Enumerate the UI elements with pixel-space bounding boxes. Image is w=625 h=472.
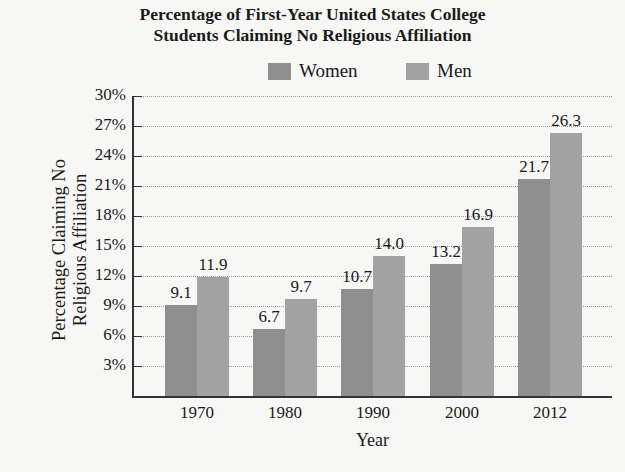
bar-men-1990 — [373, 256, 405, 396]
y-tick-label: 12% — [76, 265, 126, 285]
y-tick-mark — [134, 96, 142, 98]
value-label-men-1990: 14.0 — [364, 234, 414, 254]
y-tick-mark — [134, 246, 142, 248]
value-label-men-1980: 9.7 — [276, 277, 326, 297]
value-label-men-2012: 26.3 — [541, 111, 591, 131]
y-tick-mark — [134, 126, 142, 128]
bar-men-2000 — [462, 227, 494, 396]
x-tick-label: 1980 — [255, 403, 315, 423]
plot-area: 3%6%9%12%15%18%21%24%27%30%9.111.919706.… — [0, 0, 625, 472]
y-tick-label: 21% — [76, 175, 126, 195]
x-tick-label: 1990 — [343, 403, 403, 423]
y-tick-mark — [134, 156, 142, 158]
value-label-men-1970: 11.9 — [188, 255, 238, 275]
x-tick-label: 2012 — [520, 403, 580, 423]
bar-men-1980 — [285, 299, 317, 396]
y-tick-label: 6% — [76, 325, 126, 345]
y-tick-label: 27% — [76, 115, 126, 135]
y-tick-mark — [134, 276, 142, 278]
bar-women-2000 — [430, 264, 462, 396]
y-tick-mark — [134, 336, 142, 338]
y-tick-mark — [134, 366, 142, 368]
x-tick-label: 1970 — [167, 403, 227, 423]
x-tick-label: 2000 — [432, 403, 492, 423]
bar-men-1970 — [197, 277, 229, 396]
x-axis-label: Year — [0, 430, 625, 451]
y-tick-mark — [134, 216, 142, 218]
y-tick-mark — [134, 306, 142, 308]
gridline — [134, 96, 612, 97]
y-tick-label: 18% — [76, 205, 126, 225]
bar-women-1980 — [253, 329, 285, 396]
y-axis — [132, 96, 134, 397]
value-label-men-2000: 16.9 — [453, 205, 503, 225]
bar-women-1990 — [341, 289, 373, 396]
bar-women-2012 — [518, 179, 550, 396]
y-tick-label: 30% — [76, 85, 126, 105]
y-tick-mark — [134, 186, 142, 188]
y-tick-label: 3% — [76, 355, 126, 375]
x-axis — [132, 396, 612, 398]
y-tick-label: 24% — [76, 145, 126, 165]
bar-men-2012 — [550, 133, 582, 396]
y-tick-label: 9% — [76, 295, 126, 315]
bar-women-1970 — [165, 305, 197, 396]
y-tick-label: 15% — [76, 235, 126, 255]
